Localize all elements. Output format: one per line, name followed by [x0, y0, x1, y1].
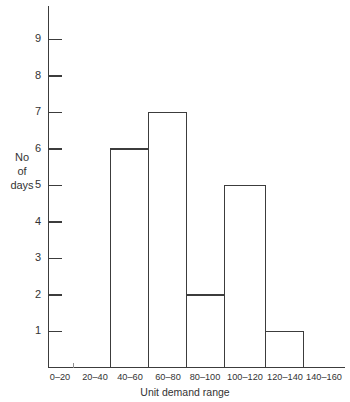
- y-tick-label-4: 4: [35, 215, 41, 227]
- bar-60-80[interactable]: [149, 113, 187, 368]
- y-axis-title-line-2: of: [17, 165, 27, 177]
- y-tick-label-1: 1: [35, 324, 41, 336]
- x-tick-label-0-20: 0–20: [50, 372, 70, 382]
- x-tick-label-120-140: 120–140: [267, 372, 303, 382]
- bar-80-100[interactable]: [187, 295, 225, 368]
- y-tick-label-9: 9: [35, 32, 41, 44]
- x-tick-label-140-160: 140–160: [306, 372, 342, 382]
- y-axis-tick-labels: 1 2 3 4 5 6 7 8 9: [35, 32, 41, 336]
- y-tick-label-7: 7: [35, 105, 41, 117]
- x-tick-label-80-100: 80–100: [190, 372, 221, 382]
- y-axis-title-line-1: No: [15, 151, 29, 163]
- y-tick-label-2: 2: [35, 288, 41, 300]
- x-axis-tick-labels: 0–20 20–40 40–60 60–80 80–100 100–120 12…: [50, 372, 342, 382]
- bar-100-120[interactable]: [225, 186, 266, 368]
- bar-120-140[interactable]: [266, 332, 304, 368]
- x-axis-title: Unit demand range: [140, 386, 229, 398]
- histogram-chart: 1 2 3 4 5 6 7 8 9 No of days: [0, 0, 350, 402]
- y-tick-label-6: 6: [35, 142, 41, 154]
- x-tick-label-20-40: 20–40: [82, 372, 108, 382]
- chart-canvas: 1 2 3 4 5 6 7 8 9 No of days: [0, 0, 350, 402]
- y-tick-label-8: 8: [35, 69, 41, 81]
- y-tick-label-5: 5: [35, 178, 41, 190]
- x-tick-label-100-120: 100–120: [227, 372, 263, 382]
- bar-40-60[interactable]: [111, 149, 149, 368]
- x-tick-label-40-60: 40–60: [117, 372, 143, 382]
- y-tick-label-3: 3: [35, 251, 41, 263]
- x-tick-label-60-80: 60–80: [155, 372, 181, 382]
- y-axis-title-line-3: days: [10, 179, 34, 191]
